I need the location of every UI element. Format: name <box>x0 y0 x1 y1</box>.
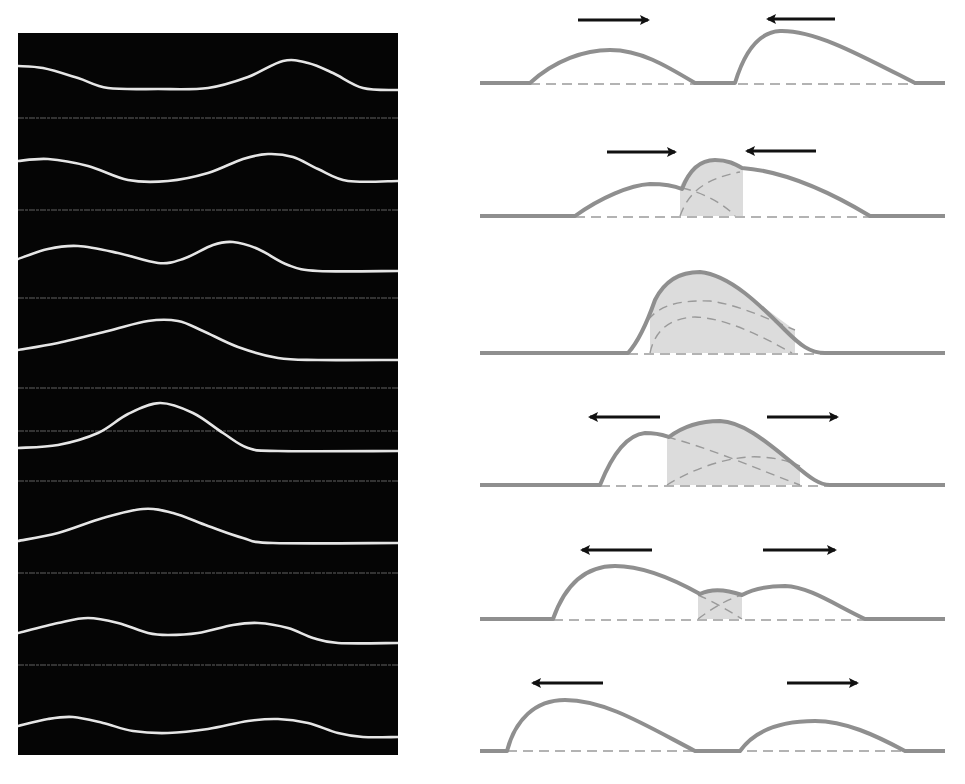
diagram-frame-begin-overlap <box>480 151 945 217</box>
resultant-displacement-curve <box>480 700 945 751</box>
diagram-frame-separating <box>480 417 945 486</box>
string-snapshot-frame-5 <box>18 403 398 451</box>
string-snapshot-frame-1 <box>18 60 398 90</box>
string-snapshot-frame-3 <box>18 242 398 272</box>
diagram-frame-separated <box>480 683 945 751</box>
string-snapshot-frame-2 <box>18 154 398 182</box>
superposition-diagram-panel <box>470 0 965 784</box>
string-snapshot-frame-4 <box>18 320 398 360</box>
diagram-frame-after-overlap <box>480 550 945 620</box>
diagram-frame-full-overlap <box>480 272 945 354</box>
string-wave-photograph <box>18 33 398 755</box>
string-snapshot-frame-7 <box>18 618 398 643</box>
pulse-superposition-diagram <box>470 0 965 784</box>
diagram-frame-approach <box>480 19 945 84</box>
resultant-displacement-curve <box>480 31 945 83</box>
overlap-region <box>680 160 743 216</box>
string-snapshot-frame-8 <box>18 717 398 737</box>
strobe-photograph-panel <box>18 33 398 755</box>
overlap-region <box>650 272 795 353</box>
string-snapshot-frame-6 <box>18 509 398 544</box>
